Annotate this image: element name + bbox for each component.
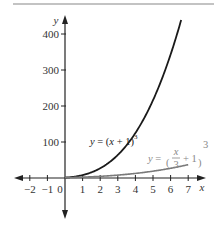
curve2-label: y =(x3+ 1)3 bbox=[147, 139, 208, 170]
y-axis-up-arrow-icon bbox=[62, 15, 68, 24]
x-tick-label: 6 bbox=[168, 183, 174, 195]
svg-text:3: 3 bbox=[203, 139, 208, 150]
svg-text:(: ( bbox=[166, 157, 170, 169]
x-tick-label: 7 bbox=[185, 183, 191, 195]
x-axis-left-arrow-icon bbox=[14, 175, 23, 181]
x-tick-label: 5 bbox=[150, 183, 156, 195]
y-tick-label: 200 bbox=[43, 100, 60, 112]
x-tick-label: 0 bbox=[57, 183, 63, 195]
y-axis-down-arrow-icon bbox=[62, 210, 68, 219]
y-axis-label: y bbox=[53, 14, 59, 26]
x-tick-label: 4 bbox=[133, 183, 139, 195]
x-tick-label: −1 bbox=[42, 183, 54, 195]
x-axis-label: x bbox=[199, 181, 205, 193]
x-tick-label: −2 bbox=[24, 183, 36, 195]
curve1-label: y = (x + 1)3 bbox=[89, 133, 138, 148]
ticks: −2−101234567100200300400 bbox=[24, 28, 192, 195]
y-tick-label: 100 bbox=[43, 136, 60, 148]
x-tick-label: 1 bbox=[80, 183, 86, 195]
y-tick-label: 400 bbox=[43, 28, 60, 40]
svg-text:y =: y = bbox=[147, 153, 161, 164]
svg-text:+ 1: + 1 bbox=[183, 153, 197, 164]
curves bbox=[65, 20, 188, 178]
x-tick-label: 2 bbox=[97, 183, 103, 195]
y-tick-label: 300 bbox=[43, 64, 60, 76]
x-tick-label: 3 bbox=[115, 183, 121, 195]
svg-text:3: 3 bbox=[173, 159, 178, 170]
svg-text:): ) bbox=[198, 157, 202, 169]
svg-text:x: x bbox=[173, 146, 179, 157]
curve-x-plus-1-cubed bbox=[65, 20, 181, 178]
chart: yx −2−101234567100200300400 y = (x + 1)3… bbox=[0, 0, 215, 225]
